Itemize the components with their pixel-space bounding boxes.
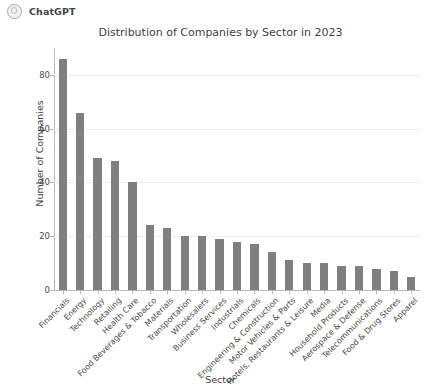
bar — [128, 182, 136, 290]
x-axis-tick-mark — [411, 291, 412, 294]
y-axis-tick-mark — [50, 236, 54, 237]
x-axis-tick-mark — [237, 291, 238, 294]
x-axis-tick-mark — [359, 291, 360, 294]
x-axis-tick-mark — [202, 291, 203, 294]
x-axis-tick-mark — [63, 291, 64, 294]
x-axis-label: Sector — [0, 374, 441, 385]
bar — [268, 252, 276, 290]
y-axis-tick-mark — [50, 129, 54, 130]
x-axis-tick-mark — [342, 291, 343, 294]
y-axis-tick-label: 20 — [24, 231, 50, 241]
bar — [146, 225, 154, 290]
bar — [250, 244, 258, 290]
bar — [337, 266, 345, 290]
x-axis-tick-mark — [307, 291, 308, 294]
x-axis-tick-mark — [185, 291, 186, 294]
x-axis-tick-mark — [220, 291, 221, 294]
bar — [320, 263, 328, 290]
x-axis-tick-mark — [254, 291, 255, 294]
y-axis-tick-mark — [50, 290, 54, 291]
x-axis-tick-mark — [272, 291, 273, 294]
x-axis-tick-mark — [376, 291, 377, 294]
x-axis-tick-mark — [289, 291, 290, 294]
x-axis-tick-mark — [80, 291, 81, 294]
bar — [390, 271, 398, 290]
brand-name: ChatGPT — [29, 6, 76, 17]
bar — [233, 242, 241, 290]
bar — [285, 260, 293, 290]
y-axis-label: Number of Companies — [34, 79, 45, 229]
y-axis-tick-label: 60 — [24, 124, 50, 134]
x-axis-tick-mark — [394, 291, 395, 294]
x-axis-tick-mark — [150, 291, 151, 294]
bar — [407, 277, 415, 290]
bar — [303, 263, 311, 290]
bar — [181, 236, 189, 290]
chatgpt-logo-icon — [7, 4, 22, 19]
y-axis-tick-mark — [50, 75, 54, 76]
x-axis-tick-mark — [324, 291, 325, 294]
chart-title: Distribution of Companies by Sector in 2… — [0, 26, 441, 39]
x-axis-tick-mark — [132, 291, 133, 294]
bar — [76, 113, 84, 290]
bar — [372, 269, 380, 291]
y-axis-tick-label: 80 — [24, 70, 50, 80]
x-axis-tick-mark — [115, 291, 116, 294]
bar — [111, 161, 119, 290]
x-axis-tick-mark — [98, 291, 99, 294]
y-axis-tick-label: 0 — [24, 285, 50, 295]
y-axis-tick-labels: Number of Companies 020406080 — [18, 48, 50, 290]
bar-series — [54, 48, 420, 290]
bar — [163, 228, 171, 290]
y-axis-tick-label: 40 — [24, 177, 50, 187]
x-axis-tick-mark — [167, 291, 168, 294]
bar — [198, 236, 206, 290]
plot-area — [54, 48, 420, 290]
y-axis-tick-mark — [50, 182, 54, 183]
app-header: ChatGPT — [0, 0, 441, 22]
bar — [355, 266, 363, 290]
bar-chart-figure: Distribution of Companies by Sector in 2… — [0, 22, 441, 389]
bar — [93, 158, 101, 290]
bar — [59, 59, 67, 290]
bar — [215, 239, 223, 290]
